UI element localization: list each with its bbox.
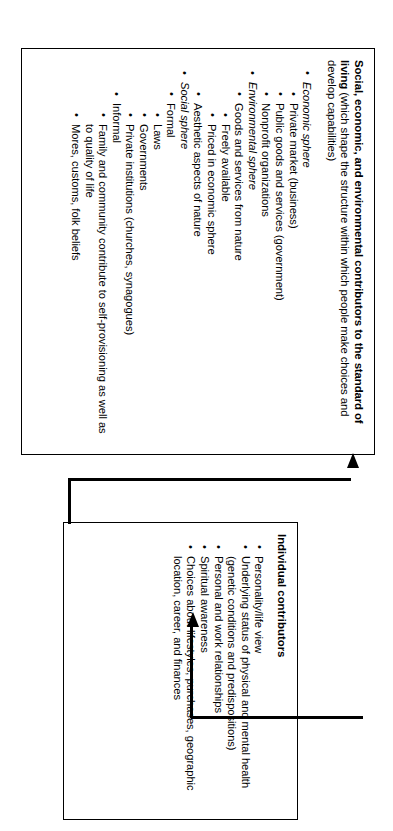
item-label: Family and community contribute to self-… xyxy=(83,124,110,443)
group-environmental-sphere: Environmental sphere Goods and services … xyxy=(191,82,258,443)
item-label: Underlying status of physical and mental… xyxy=(225,556,252,808)
group-heading-social: Social sphere xyxy=(179,82,191,149)
group-heading-environmental: Environmental sphere xyxy=(247,82,259,190)
context-to-individual-arrow-segment-horizontal xyxy=(190,624,193,718)
list-item: Nonprofit organizations xyxy=(259,103,272,443)
group-social-sphere: Social sphere Formal Laws Governments Pr… xyxy=(69,82,191,443)
individual-contributors-box: Individual contributors Personality/life… xyxy=(63,522,298,820)
item-label: Freely available xyxy=(219,124,232,443)
bottom-box-title: Individual contributors xyxy=(274,534,288,808)
list-item: Mores, customs, folk beliefs xyxy=(69,124,82,443)
list-item: Underlying status of physical and mental… xyxy=(225,556,252,808)
context-contributors-box: Social, economic, and environmental cont… xyxy=(21,48,375,455)
individual-to-context-arrow-segment-horizontal xyxy=(68,478,71,524)
informal-subitems: Family and community contribute to self-… xyxy=(69,124,109,443)
list-item: Spiritual awareness xyxy=(197,556,210,808)
item-label: Priced in economic sphere xyxy=(205,124,218,443)
environmental-subitems: Freely available Priced in economic sphe… xyxy=(205,124,232,443)
list-item: Aesthetic aspects of nature xyxy=(191,103,204,443)
list-item: Priced in economic sphere xyxy=(205,124,218,443)
item-label: Formal xyxy=(165,103,177,138)
individual-to-context-arrow-segment-vertical xyxy=(69,478,351,481)
list-item: Private institutions (churches, synagogu… xyxy=(123,124,136,443)
item-label: Private institutions (churches, synagogu… xyxy=(123,124,136,443)
list-item: Personality/life view xyxy=(252,556,265,808)
individual-to-context-arrow-head-icon xyxy=(347,453,359,468)
item-label: Goods and services from nature xyxy=(232,103,245,443)
context-to-individual-arrow-segment-vertical xyxy=(191,716,363,719)
item-label: Private market (business) xyxy=(287,103,300,443)
list-item-informal: Informal Family and community contribute… xyxy=(69,103,123,443)
list-item: Personal and work relationships xyxy=(211,556,224,808)
item-label: Laws xyxy=(151,124,164,443)
list-item: Public goods and services (government) xyxy=(273,103,286,443)
social-sphere-items: Formal Laws Governments Private institut… xyxy=(69,103,177,443)
item-label: Informal xyxy=(111,103,123,143)
list-item: Freely available xyxy=(219,124,232,443)
item-label: Aesthetic aspects of nature xyxy=(191,103,204,443)
list-item: Family and community contribute to self-… xyxy=(83,124,110,443)
diagram-stage: Social, economic, and environmental cont… xyxy=(0,0,393,831)
item-label: Mores, customs, folk beliefs xyxy=(69,124,82,443)
item-label: Personal and work relationships xyxy=(211,556,224,808)
top-box-title: Social, economic, and environmental cont… xyxy=(324,60,365,443)
diagram-canvas: Social, economic, and environmental cont… xyxy=(0,0,393,831)
item-label: Governments xyxy=(137,124,150,443)
sphere-list: Economic sphere Private market (business… xyxy=(69,82,313,443)
environmental-sphere-items: Goods and services from nature Freely av… xyxy=(191,103,245,443)
item-label: Nonprofit organizations xyxy=(259,103,272,443)
list-item: Laws xyxy=(151,124,164,443)
economic-sphere-items: Private market (business) Public goods a… xyxy=(259,103,300,443)
list-item: Governments xyxy=(137,124,150,443)
group-economic-sphere: Economic sphere Private market (business… xyxy=(259,82,313,443)
group-heading-economic: Economic sphere xyxy=(301,82,313,168)
individual-contributors-list: Personality/life view Underlying status … xyxy=(170,556,265,808)
list-item: Private market (business) xyxy=(287,103,300,443)
formal-subitems: Laws Governments Private institutions (c… xyxy=(123,124,164,443)
item-label: Spiritual awareness xyxy=(197,556,210,808)
context-to-individual-arrow-head-icon xyxy=(187,612,199,627)
item-label: Public goods and services (government) xyxy=(273,103,286,443)
top-box-title-regular: (which shape the structure within which … xyxy=(326,60,352,416)
item-label: Personality/life view xyxy=(252,556,265,808)
list-item-formal: Formal Laws Governments Private institut… xyxy=(123,103,177,443)
list-item: Goods and services from nature Freely av… xyxy=(205,103,245,443)
